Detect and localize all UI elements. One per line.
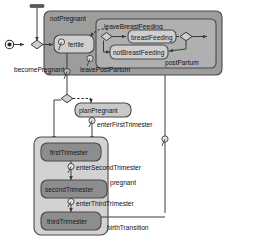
state-thirdTrimester-label: thirdTrimester (47, 218, 88, 225)
transition-birthTransition[interactable]: birthTransition (101, 217, 165, 231)
initial-node[interactable] (5, 40, 24, 48)
state-firstTrimester-label: firstTrimester (50, 149, 89, 156)
state-thirdTrimester[interactable]: thirdTrimester (41, 212, 101, 230)
top-bar (30, 5, 44, 42)
state-breastFeeding[interactable]: breastFeeding (128, 30, 176, 43)
transition-becomePregnant-label: becomePregnant (14, 66, 64, 74)
state-notBreastFeeding-label: notBreastFeeding (113, 49, 165, 57)
transition-enterFirstTrimester-label: enterFirstTrimester (97, 121, 153, 128)
region-postPartum-label: postPartum (165, 59, 199, 67)
state-planPregnant-label: planPregnant (79, 107, 118, 115)
transition-leavePostPartum-label: leavePostPartum (80, 66, 131, 73)
transition-enterThirdTrimester-label: enterThirdTrimester (76, 200, 134, 207)
state-firstTrimester[interactable]: firstTrimester (41, 143, 101, 161)
state-secondTrimester[interactable]: secondTrimester (41, 180, 107, 198)
diagram-canvas: notPregnant postPartum becomePregnant fe… (0, 0, 266, 244)
transition-enterSecondTrimester-label: enterSecondTrimester (76, 164, 142, 171)
state-fertile[interactable]: fertile (54, 35, 94, 53)
state-notBreastFeeding[interactable]: notBreastFeeding (110, 45, 168, 59)
state-fertile-label: fertile (68, 41, 84, 48)
state-planPregnant[interactable]: planPregnant (75, 103, 131, 117)
state-secondTrimester-label: secondTrimester (45, 186, 94, 193)
state-breastFeeding-label: breastFeeding (131, 34, 173, 42)
region-pregnant-label: pregnant (110, 179, 136, 187)
transition-birthTransition-label: birthTransition (107, 224, 149, 231)
state-machine-diagram: notPregnant postPartum becomePregnant fe… (0, 0, 266, 244)
region-notPregnant-label: notPregnant (50, 15, 86, 23)
